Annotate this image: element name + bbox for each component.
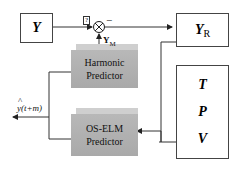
p-label: P <box>198 104 207 120</box>
harmonic-line2: Predictor <box>71 69 138 82</box>
yr-block: YR <box>176 13 229 47</box>
t-label: T <box>198 77 207 93</box>
y-block: Y <box>20 13 53 43</box>
minus-sign: − <box>106 14 112 26</box>
output-label: y(t+m) <box>17 103 42 113</box>
plus-sign-box: ? <box>83 16 90 25</box>
v-label: V <box>198 131 207 147</box>
yr-label: Y <box>195 22 204 38</box>
harmonic-predictor-block: Harmonic Predictor <box>71 50 138 88</box>
oselm-line1: OS-ELM <box>71 122 138 135</box>
yr-subscript: R <box>203 28 210 39</box>
harmonic-line1: Harmonic <box>71 56 138 69</box>
oselm-line2: Predictor <box>71 135 138 148</box>
oselm-predictor-block: OS-ELM Predictor <box>71 114 138 156</box>
y-label: Y <box>32 20 41 36</box>
ym-label: YM <box>103 35 116 48</box>
tpv-block: T P V <box>176 65 229 159</box>
